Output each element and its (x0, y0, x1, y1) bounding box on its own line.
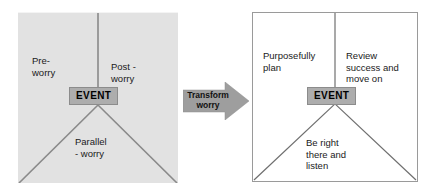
label-pre-worry: Pre- worry (32, 55, 55, 78)
transform-arrow-label: Transform worry (184, 90, 232, 110)
event-chip-left: EVENT (69, 87, 118, 105)
diagram-canvas: Pre- worry Post - worry Parallel - worry… (0, 0, 430, 192)
label-purposefully-plan: Purposefully plan (263, 50, 315, 73)
label-be-right-there: Be right there and listen (306, 137, 346, 172)
event-chip-right: EVENT (307, 87, 356, 105)
label-parallel-worry: Parallel - worry (75, 136, 107, 159)
transform-worry-arrow: Transform worry (183, 82, 249, 120)
label-post-worry: Post - worry (111, 61, 136, 84)
right-diagonal-line (98, 105, 177, 183)
right-diagonal-line (335, 104, 416, 180)
transformed-model-panel: Purposefully plan Review success and mov… (252, 12, 418, 182)
label-review-success: Review success and move on (346, 50, 399, 85)
worry-model-panel: Pre- worry Post - worry Parallel - worry… (18, 12, 178, 183)
